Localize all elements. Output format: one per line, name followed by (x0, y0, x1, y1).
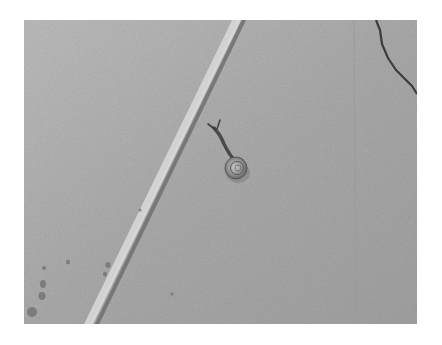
photo-canvas (24, 20, 417, 324)
snail-photo (24, 20, 417, 324)
